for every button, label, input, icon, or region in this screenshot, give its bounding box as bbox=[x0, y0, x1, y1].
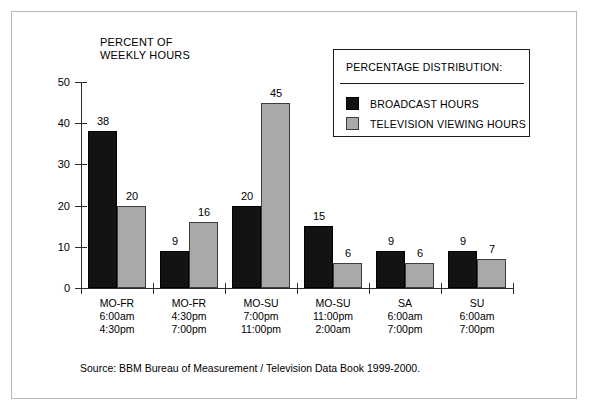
bar-broadcast bbox=[160, 251, 189, 288]
chart-legend: PERCENTAGE DISTRIBUTION: BROADCAST HOURS… bbox=[333, 49, 530, 137]
bar-value-label: 6 bbox=[403, 248, 437, 259]
x-axis-tick bbox=[225, 283, 226, 294]
x-axis-category-label: SU 6:00am 7:00pm bbox=[441, 297, 513, 336]
bar-viewing bbox=[117, 206, 146, 288]
y-axis-line bbox=[81, 82, 82, 289]
bar-value-label: 38 bbox=[86, 116, 120, 127]
bar-viewing bbox=[261, 103, 290, 288]
bar-broadcast bbox=[304, 226, 333, 288]
y-axis-tick bbox=[75, 206, 87, 207]
y-axis-tick-label: 50 bbox=[42, 77, 70, 88]
x-axis-tick bbox=[81, 283, 82, 294]
bar-value-label: 7 bbox=[475, 244, 509, 255]
bar-broadcast bbox=[376, 251, 405, 288]
source-note: Source: BBM Bureau of Measurement / Tele… bbox=[80, 362, 420, 375]
x-axis-category-label: SA 6:00am 7:00pm bbox=[369, 297, 441, 336]
bar-viewing bbox=[405, 263, 434, 288]
bar-value-label: 6 bbox=[331, 248, 365, 259]
x-axis-category-label: MO-FR 6:00am 4:30pm bbox=[81, 297, 153, 336]
x-axis-category-label: MO-FR 4:30pm 7:00pm bbox=[153, 297, 225, 336]
y-axis-tick bbox=[75, 82, 87, 83]
bar-value-label: 9 bbox=[158, 236, 192, 247]
bar-value-label: 20 bbox=[230, 191, 264, 202]
legend-swatch-broadcast-icon bbox=[346, 97, 359, 110]
x-axis-category-label: MO-SU 7:00pm 11:00pm bbox=[225, 297, 297, 336]
bar-value-label: 16 bbox=[187, 207, 221, 218]
x-axis-tick bbox=[369, 283, 370, 294]
legend-swatch-viewing-icon bbox=[346, 117, 359, 130]
y-axis-tick-label: 40 bbox=[42, 118, 70, 129]
bar-broadcast bbox=[232, 206, 261, 288]
bar-broadcast bbox=[448, 251, 477, 288]
legend-title: PERCENTAGE DISTRIBUTION: bbox=[346, 61, 502, 73]
legend-label-broadcast: BROADCAST HOURS bbox=[370, 98, 479, 110]
legend-label-viewing: TELEVISION VIEWING HOURS bbox=[370, 118, 526, 130]
bar-viewing bbox=[333, 263, 362, 288]
bar-value-label: 45 bbox=[259, 88, 293, 99]
x-axis-tick bbox=[297, 283, 298, 294]
y-axis-tick-label: 0 bbox=[42, 283, 70, 294]
x-axis-tick bbox=[441, 283, 442, 294]
bar-value-label: 9 bbox=[374, 236, 408, 247]
bar-value-label: 15 bbox=[302, 211, 336, 222]
bar-viewing bbox=[189, 222, 218, 288]
x-axis-tick bbox=[513, 283, 514, 294]
y-axis-tick-label: 20 bbox=[42, 201, 70, 212]
x-axis-category-label: MO-SU 11:00pm 2:00am bbox=[297, 297, 369, 336]
bar-value-label: 20 bbox=[115, 191, 149, 202]
y-axis-tick-label: 10 bbox=[42, 242, 70, 253]
bar-viewing bbox=[477, 259, 506, 288]
y-axis-tick-label: 30 bbox=[42, 159, 70, 170]
legend-divider bbox=[340, 83, 524, 84]
bar-broadcast bbox=[88, 131, 117, 288]
y-axis-tick bbox=[75, 247, 87, 248]
y-axis-tick bbox=[75, 164, 87, 165]
x-axis-tick bbox=[153, 283, 154, 294]
